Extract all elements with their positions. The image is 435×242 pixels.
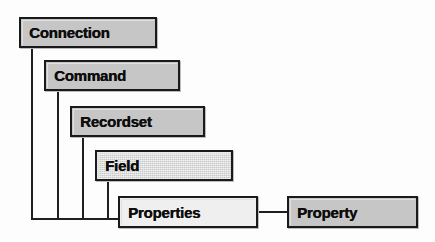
connector-properties-to-property [258,211,288,213]
node-label-field: Field [97,157,139,174]
node-field[interactable]: Field [95,150,233,181]
object-model-diagram: Connection Command Recordset Field Prope… [0,0,435,242]
node-property[interactable]: Property [287,196,418,228]
node-connection[interactable]: Connection [19,17,157,48]
node-label-command: Command [46,67,126,84]
node-properties[interactable]: Properties [118,196,258,228]
node-label-recordset: Recordset [72,113,152,130]
connector-recordset-stem [82,137,84,220]
connector-bus-horizontal [31,218,119,220]
connector-command-stem [57,91,59,220]
node-command[interactable]: Command [44,60,180,91]
node-label-properties: Properties [120,204,200,221]
node-label-property: Property [289,204,357,221]
node-label-connection: Connection [21,24,110,41]
node-recordset[interactable]: Recordset [70,106,205,137]
connector-connection-stem [31,48,33,220]
connector-field-stem [107,181,109,220]
